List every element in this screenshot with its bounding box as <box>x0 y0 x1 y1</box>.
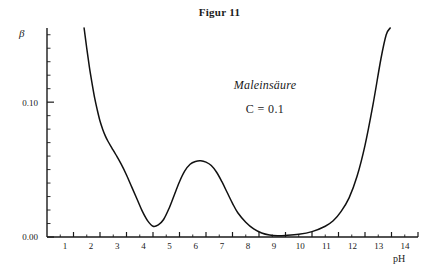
x-axis-ticks <box>60 232 418 237</box>
axis-lines <box>47 28 418 237</box>
beta-curve <box>84 28 390 236</box>
figure-page: Figur 11 β pH 0.10 0.00 1 2 3 4 5 6 7 8 … <box>0 0 439 280</box>
y-axis-ticks <box>47 35 54 237</box>
plot-area <box>0 0 439 280</box>
